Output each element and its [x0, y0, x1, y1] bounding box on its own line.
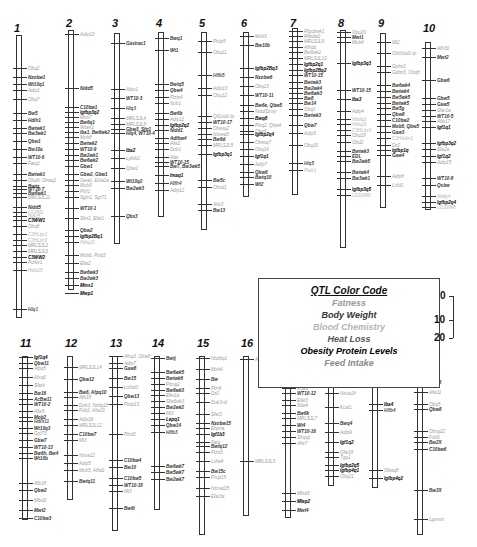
qtl-label: WT10-11: [255, 93, 274, 98]
qtl-label: Sfar1a: [437, 108, 451, 113]
marker-tick: [65, 285, 79, 286]
marker-tick: [196, 496, 210, 497]
marker-tick: [13, 120, 27, 121]
qtl-label: WT10-8: [437, 176, 453, 181]
marker-tick: [422, 162, 436, 163]
marker-tick: [198, 52, 212, 53]
marker-tick: [109, 467, 123, 468]
qtl-label: Bwtq5: [170, 82, 184, 87]
marker-tick: [325, 457, 339, 458]
marker-tick: [282, 437, 296, 438]
chromosome-label: 16: [241, 337, 253, 349]
marker-tick: [289, 36, 303, 37]
marker-tick: [198, 134, 212, 135]
marker-tick: [414, 449, 428, 450]
marker-tick: [13, 234, 27, 235]
marker-tick: [65, 34, 79, 35]
marker-tick: [196, 446, 210, 447]
qtl-label: Obsd1: [213, 185, 227, 190]
marker-tick: [155, 130, 169, 131]
qtl-label: Sfat4: [297, 403, 308, 408]
qtl-label: Obq21: [340, 474, 354, 479]
marker-tick: [151, 413, 165, 414]
marker-tick: [196, 461, 210, 462]
qtl-label: Nzoa12: [79, 453, 95, 458]
legend-item-obesity-protein: Obesity Protein Levels: [259, 345, 439, 357]
marker-tick: [65, 293, 79, 294]
chromosome-label: 13: [110, 337, 122, 349]
marker-tick: [13, 226, 27, 227]
marker-tick: [109, 460, 123, 461]
qtl-label: LGSXM8: [437, 205, 456, 210]
marker-tick: [13, 240, 27, 241]
marker-tick: [155, 103, 169, 104]
qtl-label: Adip3: [304, 131, 316, 136]
marker-tick: [109, 404, 123, 405]
scale-tick: [449, 320, 453, 321]
qtl-label: Gpf73: [34, 431, 47, 436]
marker-tick: [13, 133, 27, 134]
marker-tick: [377, 42, 391, 43]
qtl-label: Qbw8: [392, 112, 405, 117]
marker-tick: [377, 145, 391, 146]
marker-tick: [240, 125, 254, 126]
marker-tick: [337, 142, 351, 143]
marker-tick: [151, 378, 165, 379]
marker-tick: [64, 425, 78, 426]
qtl-label: MRLSJL9: [304, 39, 324, 44]
marker-tick: [289, 58, 303, 59]
qtl-label: Kcal1: [340, 405, 352, 410]
marker-tick: [109, 478, 123, 479]
marker-tick: [155, 157, 169, 158]
qtl-label: WT10-12: [297, 391, 316, 396]
chromosome-bar: [114, 33, 120, 244]
qtl-label: Bw5: [28, 111, 37, 116]
marker-tick: [337, 189, 351, 190]
qtl-label: Obq8: [28, 224, 39, 229]
marker-tick: [19, 368, 33, 369]
marker-tick: [337, 172, 351, 173]
marker-tick: [240, 111, 254, 112]
qtl-label: Adip11: [170, 117, 184, 122]
marker-tick: [325, 407, 339, 408]
marker-tick: [13, 174, 27, 175]
marker-tick: [155, 90, 169, 91]
marker-tick: [13, 207, 27, 208]
qtl-label: Igf1q1: [437, 125, 451, 130]
marker-tick: [325, 442, 339, 443]
marker-tick: [289, 52, 303, 53]
marker-tick: [422, 116, 436, 117]
chromosome-label: 15: [197, 337, 209, 349]
qtl-label: Gaw8: [124, 366, 136, 371]
qtl-label: C3WW1: [28, 218, 45, 223]
qtl-label: Gaw5: [437, 102, 449, 107]
marker-tick: [198, 187, 212, 188]
marker-tick: [65, 263, 79, 264]
chromosome-label: 8: [338, 17, 344, 29]
qtl-label: Bw2wk5: [352, 159, 370, 164]
qtl-label: Gaw3: [392, 130, 404, 135]
marker-tick: [19, 404, 33, 405]
qtl-label: Wt1: [170, 48, 178, 53]
marker-tick: [65, 185, 79, 186]
legend-item-feed-intake: Feed Intake: [259, 357, 439, 369]
qtl-label: Obesq2: [213, 126, 229, 131]
marker-tick: [337, 63, 351, 64]
marker-tick: [196, 414, 210, 415]
qtl-label: Wt4: [297, 423, 305, 428]
qtl-label: Gphz2: [392, 64, 406, 69]
marker-tick: [337, 119, 351, 120]
qtl-label: Bw14: [304, 101, 316, 106]
marker-tick: [240, 131, 254, 132]
marker-tick: [377, 91, 391, 92]
marker-tick: [155, 183, 169, 184]
marker-tick: [19, 447, 33, 448]
qtl-label: Lgxsmt: [429, 517, 444, 522]
qtl-label: Sgtn1, Sgt71: [80, 195, 107, 200]
marker-tick: [240, 105, 254, 106]
marker-tick: [64, 410, 78, 411]
qtl-label: Bw5wk7: [166, 470, 184, 475]
chromosome-label: 9: [378, 17, 384, 29]
qtl-label: Lepq1: [166, 417, 180, 422]
qtl-label: C10bw7: [79, 432, 96, 437]
